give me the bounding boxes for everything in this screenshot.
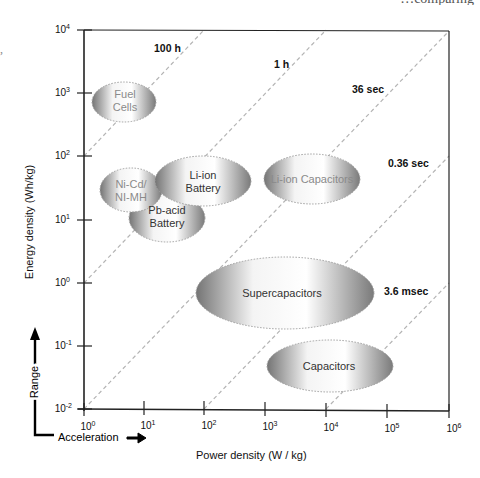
ragone-chart: Fuel Cells Ni-Cd/ NI-MH Li-ion Battery P…: [0, 0, 480, 478]
x-tick-1e2: 102: [201, 419, 216, 431]
label-li-ion-capacitors: Li-ion Capacitors: [271, 173, 354, 185]
label-pb-acid-2: Battery: [150, 217, 185, 229]
x-tick-1e4: 104: [323, 421, 338, 433]
x-axis-line: [78, 409, 449, 411]
label-li-ion-battery-1: Li-ion: [190, 169, 217, 181]
label-supercapacitors: Supercapacitors: [242, 287, 322, 299]
ellipse-li-ion-battery: [155, 156, 251, 206]
x-tick-1e5: 105: [384, 422, 399, 434]
label-100h: 100 h: [154, 42, 181, 54]
y-axis-title: Energy density (Wh/kg): [23, 165, 35, 279]
y-tick-labels: 104 103 102 101 100 10-1 10-2: [55, 23, 72, 414]
label-pb-acid-1: Pb-acid: [148, 204, 185, 216]
label-36msec: 3.6 msec: [384, 285, 429, 297]
label-1h: 1 h: [274, 58, 289, 70]
arrow-up-icon: [30, 327, 40, 340]
y-tick-1e1: 101: [55, 213, 70, 225]
y-tick-1e-1: 10-1: [55, 339, 72, 351]
x-tick-1e3: 103: [262, 420, 277, 432]
range-label: Range: [28, 366, 40, 398]
acceleration-label: Acceleration: [58, 431, 119, 443]
label-fuel-cells-1: Fuel: [114, 88, 135, 100]
x-axis-title: Power density (W / kg): [196, 449, 307, 461]
y-tick-1e-2: 10-2: [55, 402, 72, 414]
label-36sec: 36 sec: [352, 83, 384, 95]
y-tick-1e2: 102: [55, 149, 70, 161]
y-tick-1e0: 100: [55, 276, 70, 288]
label-fuel-cells-2: Cells: [113, 101, 138, 113]
label-li-ion-battery-2: Battery: [186, 182, 221, 194]
label-nicd-1: Ni-Cd/: [115, 178, 147, 190]
technology-regions: [92, 82, 393, 392]
x-tick-labels: 100 101 102 103 104 105 106: [80, 419, 461, 434]
y-tick-1e3: 103: [55, 86, 70, 98]
arrow-right-icon: [127, 433, 146, 443]
x-tick-1e1: 101: [140, 419, 155, 431]
label-036sec: 0.36 sec: [388, 157, 429, 169]
y-tick-1e4: 104: [55, 23, 70, 35]
label-capacitors: Capacitors: [303, 360, 356, 372]
x-tick-1e6: 106: [446, 422, 461, 434]
label-nicd-2: NI-MH: [115, 191, 147, 203]
